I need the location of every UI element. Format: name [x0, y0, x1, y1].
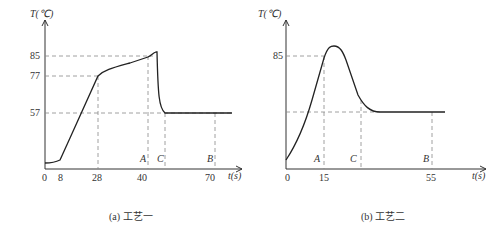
marker-C-b: C [350, 153, 357, 164]
curve-b [286, 46, 445, 160]
marker-A-a: A [140, 153, 146, 164]
marker-B-a: B [207, 153, 213, 164]
marker-B-b: B [423, 153, 429, 164]
marker-A-b: A [314, 153, 320, 164]
chart-a [45, 20, 242, 169]
tick-8-a: 8 [58, 172, 63, 183]
x-axis-label-b: t(s) [472, 170, 485, 181]
tick-85-a: 85 [30, 50, 40, 61]
tick-55-b: 55 [426, 172, 436, 183]
charts-canvas [0, 0, 498, 234]
y-axis-label-b: T(℃) [258, 8, 281, 19]
caption-b: (b) 工艺二 [361, 208, 405, 223]
tick-77-a: 77 [30, 70, 40, 81]
tick-15-b: 15 [319, 172, 329, 183]
tick-0-a: 0 [42, 172, 47, 183]
tick-57-a: 57 [30, 107, 40, 118]
tick-0-b: 0 [285, 172, 290, 183]
tick-70-a: 70 [205, 172, 215, 183]
chart-b [286, 20, 486, 169]
curve-a [45, 52, 232, 163]
caption-a: (a) 工艺一 [109, 208, 153, 223]
y-axis-label-a: T(℃) [30, 8, 53, 19]
marker-C-a: C [157, 153, 164, 164]
tick-40-a: 40 [137, 172, 147, 183]
x-axis-label-a: t(s) [228, 170, 241, 181]
tick-85-b: 85 [273, 50, 283, 61]
tick-28-a: 28 [92, 172, 102, 183]
